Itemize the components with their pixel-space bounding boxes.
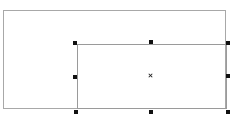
center-cross-icon xyxy=(148,73,153,78)
resize-handle-middle-left[interactable] xyxy=(73,75,77,79)
resize-handle-bottom-left[interactable] xyxy=(74,110,78,114)
resize-handle-top-center[interactable] xyxy=(149,40,153,44)
resize-handle-middle-right[interactable] xyxy=(226,74,230,78)
resize-handle-top-right[interactable] xyxy=(226,41,230,45)
resize-handle-bottom-center[interactable] xyxy=(149,110,153,114)
resize-handle-top-left[interactable] xyxy=(73,41,77,45)
resize-handle-bottom-right[interactable] xyxy=(226,110,230,114)
diagram-canvas[interactable] xyxy=(0,0,234,120)
